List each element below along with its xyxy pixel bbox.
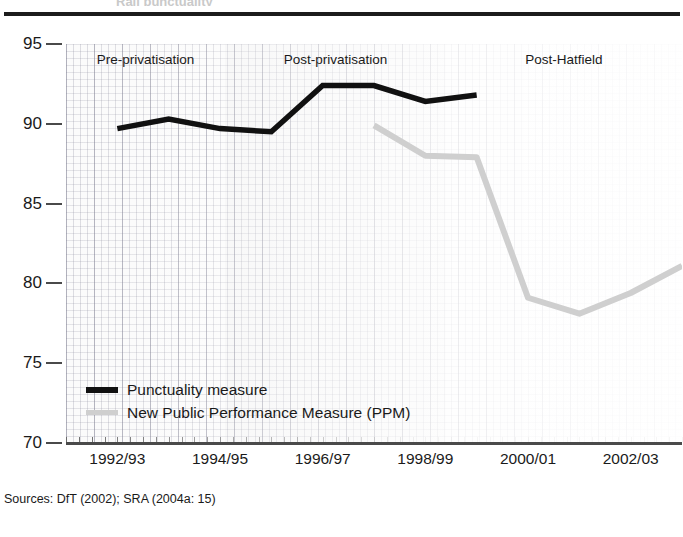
x-axis-tick <box>451 437 452 442</box>
y-axis-tick <box>46 282 62 284</box>
x-axis-ticks <box>66 437 682 443</box>
series-line-ppm <box>374 125 682 313</box>
x-axis-tick <box>528 437 529 442</box>
x-axis-tick <box>259 437 260 442</box>
x-axis-tick <box>310 437 311 442</box>
x-axis-label: 1998/99 <box>397 450 453 468</box>
x-axis-tick <box>515 437 516 442</box>
annotation-post-hatfield: Post-Hatfield <box>525 52 602 67</box>
x-axis-tick <box>117 437 118 442</box>
x-axis-tick <box>66 437 67 442</box>
y-axis-label: 85 <box>23 194 42 214</box>
y-axis-tick <box>46 203 62 205</box>
x-axis-tick <box>361 437 362 442</box>
x-axis-tick <box>156 437 157 442</box>
x-axis-tick <box>194 437 195 442</box>
x-axis-label: 1992/93 <box>89 450 145 468</box>
x-axis-tick <box>618 437 619 442</box>
x-axis-tick <box>220 437 221 442</box>
x-axis-tick <box>567 437 568 442</box>
x-axis-tick <box>323 437 324 442</box>
figure-title-clipped: Rail punctuality <box>0 0 682 6</box>
x-axis-tick <box>592 437 593 442</box>
x-axis-tick <box>464 437 465 442</box>
legend-item-punctuality: Punctuality measure <box>86 378 410 401</box>
annotation-post-privatisation: Post-privatisation <box>284 52 388 67</box>
x-axis-tick <box>413 437 414 442</box>
x-axis-tick <box>554 437 555 442</box>
x-axis-tick <box>105 437 106 442</box>
y-axis-label: 70 <box>23 433 42 453</box>
x-axis-tick <box>169 437 170 442</box>
x-axis-tick <box>246 437 247 442</box>
y-axis-label: 95 <box>23 34 42 54</box>
x-axis-tick <box>656 437 657 442</box>
legend-label-ppm: New Public Performance Measure (PPM) <box>127 404 410 422</box>
x-axis-tick <box>438 437 439 442</box>
x-axis-tick <box>644 437 645 442</box>
x-axis-tick <box>143 437 144 442</box>
x-axis-tick <box>477 437 478 442</box>
x-axis-tick <box>631 437 632 442</box>
x-axis-tick <box>490 437 491 442</box>
x-axis-tick <box>182 437 183 442</box>
x-axis-tick <box>605 437 606 442</box>
x-axis-tick <box>579 437 580 442</box>
x-axis-tick <box>92 437 93 442</box>
y-axis-tick <box>46 43 62 45</box>
x-axis-tick <box>669 437 670 442</box>
y-axis-label: 90 <box>23 114 42 134</box>
x-axis-tick <box>130 437 131 442</box>
x-axis-tick <box>374 437 375 442</box>
x-axis-label: 2002/03 <box>603 450 659 468</box>
x-axis-tick <box>79 437 80 442</box>
x-axis-tick <box>348 437 349 442</box>
x-axis-tick <box>271 437 272 442</box>
x-axis-tick <box>207 437 208 442</box>
x-axis-tick <box>233 437 234 442</box>
annotation-pre-privatisation: Pre-privatisation <box>97 52 195 67</box>
top-rule-divider <box>4 12 680 16</box>
y-axis: 959085807570 <box>0 0 66 537</box>
x-axis-label: 2000/01 <box>500 450 556 468</box>
legend-swatch-ppm <box>86 410 118 415</box>
x-axis-tick <box>297 437 298 442</box>
x-axis-label: 1996/97 <box>295 450 351 468</box>
chart-legend: Punctuality measure New Public Performan… <box>86 378 410 424</box>
x-axis-tick <box>425 437 426 442</box>
source-note: Sources: DfT (2002); SRA (2004a: 15) <box>4 492 216 506</box>
y-axis-tick <box>46 123 62 125</box>
x-axis-tick <box>336 437 337 442</box>
y-axis-label: 75 <box>23 353 42 373</box>
legend-label-punctuality: Punctuality measure <box>127 381 267 399</box>
series-line-punctuality <box>117 86 476 132</box>
y-axis-tick <box>46 362 62 364</box>
x-axis-tick <box>387 437 388 442</box>
y-axis-tick <box>46 442 62 444</box>
x-axis-tick <box>400 437 401 442</box>
x-axis-tick <box>284 437 285 442</box>
x-axis-label: 1994/95 <box>192 450 248 468</box>
legend-item-ppm: New Public Performance Measure (PPM) <box>86 401 410 424</box>
x-axis-tick <box>541 437 542 442</box>
y-axis-label: 80 <box>23 273 42 293</box>
x-axis-tick <box>502 437 503 442</box>
legend-swatch-punctuality <box>86 387 118 393</box>
